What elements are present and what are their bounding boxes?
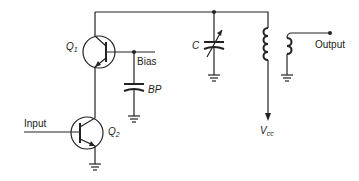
variable-capacitor-c — [204, 12, 224, 75]
ground-icon-bp — [128, 116, 140, 122]
output-label: Output — [315, 39, 345, 50]
ground-icon-q2 — [89, 164, 101, 170]
input-label: Input — [24, 118, 46, 129]
ground-icon-secondary — [281, 75, 293, 81]
vcc-label: Vcc — [260, 125, 274, 137]
ground-icon-c — [208, 75, 220, 81]
q1-label: Q1 — [66, 41, 78, 53]
transformer-secondary-coil — [287, 31, 332, 75]
bp-label: BP — [148, 84, 162, 95]
c-label: C — [192, 40, 200, 51]
circuit-diagram: Q1 Bias BP Input Q2 — [0, 0, 359, 181]
transformer-primary-coil — [264, 28, 272, 121]
bias-label: Bias — [137, 56, 156, 67]
top-rail-wire — [95, 12, 268, 28]
q2-label: Q2 — [108, 126, 120, 138]
